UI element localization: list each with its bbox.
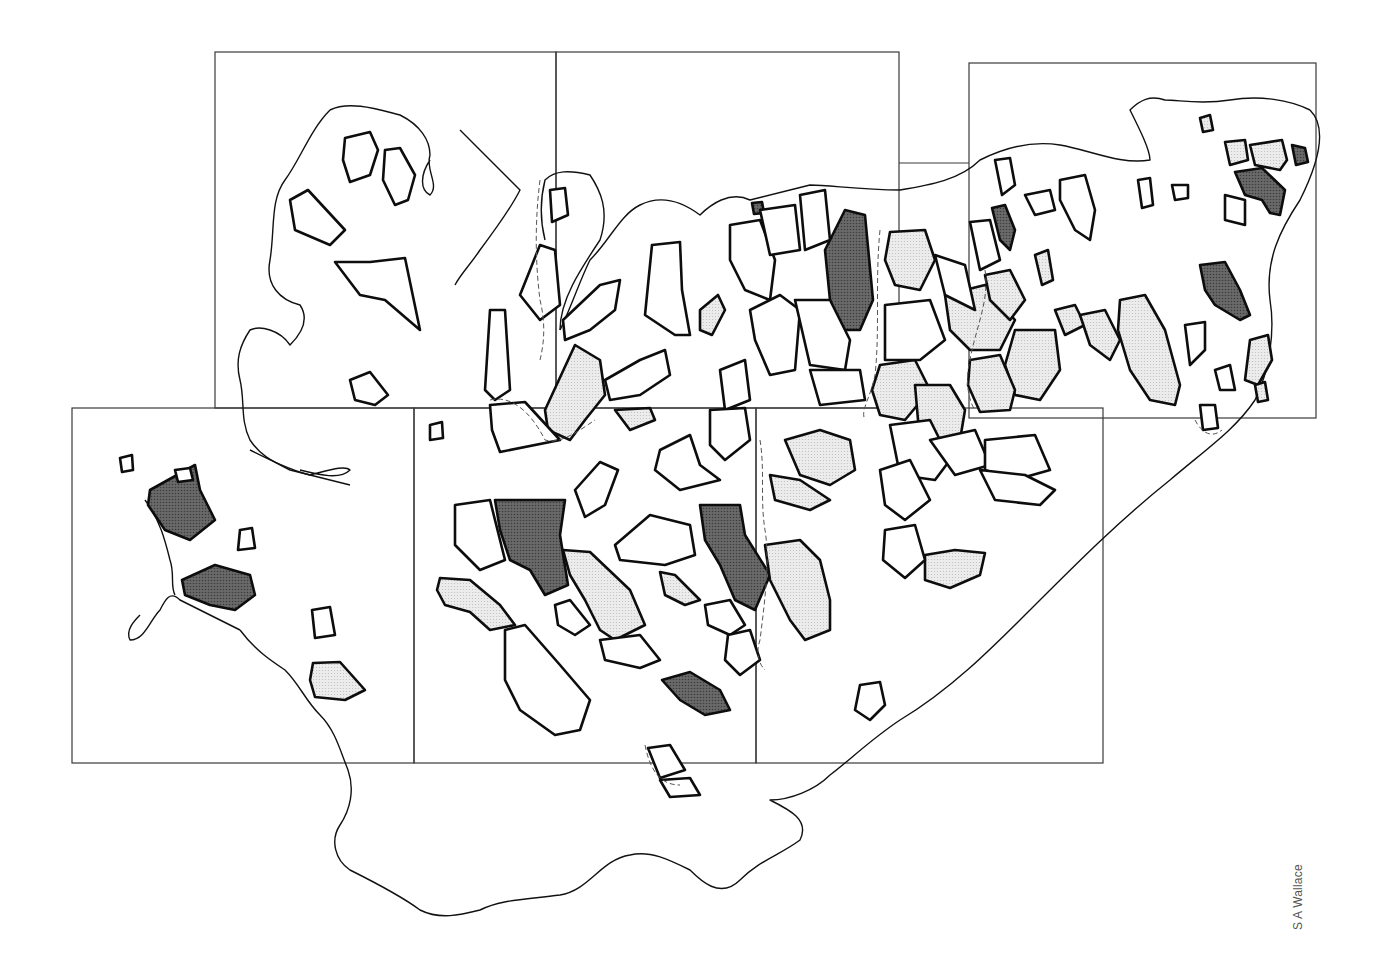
dark-region (662, 672, 730, 715)
white-region (343, 132, 378, 182)
dark-region (182, 565, 255, 610)
white-region (995, 158, 1015, 195)
light-region (437, 578, 515, 630)
light-region (660, 572, 700, 605)
white-region (575, 462, 618, 517)
white-region (750, 295, 800, 375)
light-region (925, 550, 985, 588)
white-region (720, 360, 750, 410)
white-region (505, 625, 590, 735)
white-region (1172, 185, 1188, 200)
white-region (885, 300, 945, 360)
white-region (1225, 195, 1245, 225)
white-region (1185, 322, 1205, 365)
white-region (855, 682, 885, 720)
white-region (980, 470, 1055, 505)
white-region (710, 408, 750, 460)
author-credit: S A Wallace (1291, 864, 1305, 930)
light-region (785, 430, 855, 485)
white-region (550, 188, 568, 222)
dark-region (1292, 145, 1308, 165)
white-region (800, 190, 830, 250)
white-region (1025, 190, 1055, 215)
white-region (645, 242, 690, 335)
light-region (1080, 310, 1120, 360)
white-region (312, 607, 335, 638)
white-region (705, 600, 745, 635)
white-region (350, 372, 388, 405)
light-region (885, 230, 935, 290)
white-region (970, 220, 1000, 270)
dark-region (495, 500, 568, 595)
light-region (1118, 295, 1180, 405)
light-region (545, 345, 605, 440)
white-region (605, 350, 670, 400)
light-region (1035, 250, 1053, 285)
map-canvas (0, 0, 1384, 978)
white-region (660, 778, 700, 797)
white-region (1060, 175, 1095, 240)
light-region (310, 662, 365, 700)
white-region (238, 528, 255, 550)
dark-region (700, 505, 770, 610)
white-region (1215, 365, 1235, 390)
white-region (520, 245, 560, 320)
light-region (1250, 140, 1287, 170)
white-region (648, 745, 685, 778)
white-region (175, 468, 193, 482)
white-region (563, 280, 620, 340)
light-region (1225, 140, 1248, 165)
white-region (883, 525, 925, 578)
white-region (615, 515, 695, 565)
white-region (383, 148, 415, 205)
light-region (1245, 335, 1272, 385)
dark-region (1200, 262, 1250, 320)
white-region (335, 258, 420, 330)
white-region (430, 422, 443, 440)
white-region (1138, 178, 1153, 208)
white-region (725, 630, 760, 675)
light-region (615, 408, 655, 430)
white-region (290, 190, 345, 245)
light-region (765, 540, 830, 640)
white-region (120, 455, 133, 472)
white-region (600, 635, 660, 668)
white-region (1200, 405, 1218, 430)
white-region (555, 600, 590, 635)
white-region (810, 370, 865, 405)
light-region (1200, 115, 1213, 132)
map-sheet-frames (72, 52, 1316, 763)
light-region (700, 295, 725, 335)
white-region (485, 310, 510, 400)
light-region (1255, 382, 1268, 402)
